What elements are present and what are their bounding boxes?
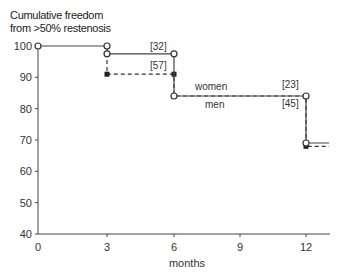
men-marker	[105, 72, 110, 77]
y-tick-40: 40	[20, 228, 32, 240]
women-marker	[35, 43, 41, 49]
x-tick-0: 0	[35, 241, 41, 253]
x-ticks: 0 3 6 9 12 months	[35, 234, 312, 269]
women-marker	[171, 51, 177, 57]
y-tick-90: 90	[20, 71, 32, 83]
x-axis-label: months	[169, 257, 206, 269]
y-tick-70: 70	[20, 134, 32, 146]
series-women	[35, 43, 329, 146]
x-tick-3: 3	[104, 241, 110, 253]
women-marker	[303, 140, 309, 146]
annotation-n23: [23]	[282, 79, 299, 90]
y-tick-100: 100	[14, 40, 32, 52]
x-tick-6: 6	[171, 241, 177, 253]
y-tick-50: 50	[20, 197, 32, 209]
chart-plot: 100 90 80 70 60 50 40 0 3 6 9 12 months	[0, 0, 345, 276]
annotation-n32: [32]	[150, 41, 167, 52]
y-tick-60: 60	[20, 165, 32, 177]
women-marker	[104, 43, 110, 49]
women-marker	[104, 51, 110, 57]
x-tick-12: 12	[300, 241, 312, 253]
women-marker	[171, 93, 177, 99]
label-women: women	[194, 81, 227, 92]
annotation-n57: [57]	[150, 60, 167, 71]
x-tick-9: 9	[237, 241, 243, 253]
annotation-n45: [45]	[282, 98, 299, 109]
label-men: men	[205, 99, 224, 110]
y-tick-80: 80	[20, 103, 32, 115]
women-marker	[303, 93, 309, 99]
y-ticks: 100 90 80 70 60 50 40	[14, 40, 38, 240]
